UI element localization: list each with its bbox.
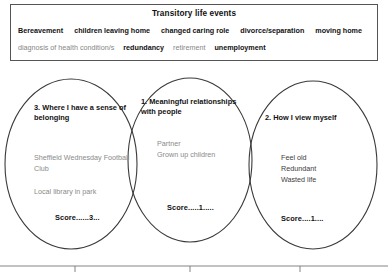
- venn-diagram: 3. Where I have a sense of belonging She…: [0, 0, 388, 272]
- venn-middle-items: Partner Grown up children: [157, 138, 247, 160]
- bottom-rule: [0, 264, 388, 272]
- venn-right-score: Score....1....: [281, 214, 323, 223]
- venn-right-heading: 2. How I view myself: [265, 113, 369, 123]
- venn-left-score: Score......3...: [55, 213, 100, 222]
- venn-right-items: Feel old Redundant Wasted life: [281, 152, 373, 185]
- venn-left-items: Sheffield Wednesday Football Club: [34, 152, 134, 174]
- venn-left-items-secondary: Local library in park: [34, 186, 134, 197]
- venn-middle-score: Score.....1.....: [167, 203, 214, 212]
- venn-left-heading: 3. Where I have a sense of belonging: [34, 103, 138, 123]
- venn-circles-svg: [0, 0, 388, 272]
- venn-middle-heading: 1. Meaningful relationships with people: [141, 97, 237, 117]
